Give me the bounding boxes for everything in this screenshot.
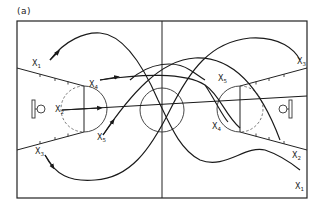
svg-text:X2: X2 [55,105,64,115]
right-basket-icon [279,100,292,118]
svg-text:X4: X4 [89,80,98,90]
svg-text:X4: X4 [212,122,221,132]
label-x5-left: X5 [97,133,106,143]
label-x5-right: X5 [218,74,227,84]
court-diagram: X1 X4 X2 X5 X3 X5 X3 X4 X2 X1 [0,0,322,213]
label-x3-left: X3 [35,147,44,157]
x4-path [100,75,240,128]
svg-text:X1: X1 [32,59,41,69]
right-key [217,68,307,150]
label-x3-right: X3 [297,57,306,67]
label-x1-top: X1 [32,59,41,69]
label-x2-right: X2 [292,151,301,161]
svg-text:X3: X3 [35,147,44,157]
left-basket-icon [32,100,45,118]
svg-text:X5: X5 [97,133,106,143]
svg-text:X3: X3 [297,57,306,67]
svg-text:X5: X5 [218,74,227,84]
svg-text:X2: X2 [292,151,301,161]
label-x4-left: X4 [89,80,98,90]
label-x2-left: X2 [55,105,64,115]
label-x4-right: X4 [212,122,221,132]
svg-text:X1: X1 [295,182,304,192]
label-x1-right: X1 [295,182,304,192]
